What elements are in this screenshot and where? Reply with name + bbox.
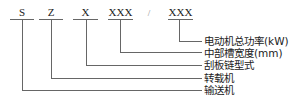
label-transfer-machine: 转载机 [204,72,234,84]
label-conveyor: 输送机 [204,84,234,96]
label-chain-type: 刮板链型式 [204,59,254,71]
label-trough-width: 中部槽宽度(mm) [204,47,283,59]
code-x: X [73,6,98,18]
code-separator: / [144,7,154,19]
label-motor-power: 电动机总功率(kW) [204,35,289,47]
code-xxx-width: XXX [108,6,133,18]
code-xxx-power: XXX [168,6,193,18]
code-z: Z [39,6,63,18]
code-s: S [10,6,34,18]
